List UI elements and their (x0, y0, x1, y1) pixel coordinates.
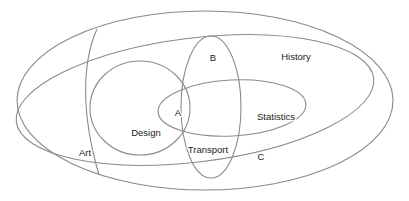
label-history: History (281, 51, 311, 62)
label-statistics: Statistics (257, 111, 295, 122)
venn-diagram-container: B History A Statistics Design Art Transp… (0, 0, 409, 201)
label-b: B (210, 52, 216, 63)
venn-diagram: B History A Statistics Design Art Transp… (0, 0, 409, 201)
label-a: A (175, 107, 182, 118)
label-art: Art (79, 147, 92, 158)
label-c: C (258, 151, 265, 162)
label-transport: Transport (188, 144, 229, 155)
label-design: Design (131, 127, 161, 138)
